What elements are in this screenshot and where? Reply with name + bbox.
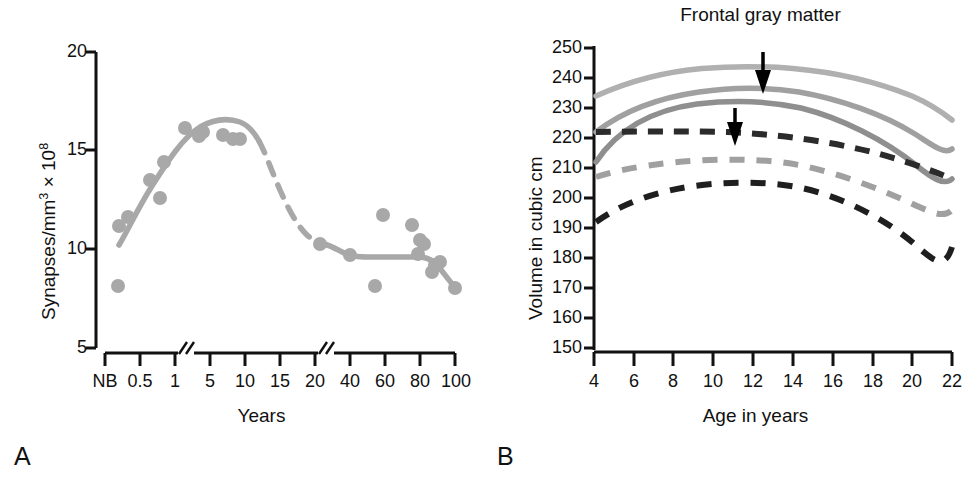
panel-b-curve-dashed-middle [596,160,952,214]
panel-b-y-tick-240: 240 [524,67,582,88]
panel-b-x-tick-22: 22 [927,371,974,392]
panel-b-x-axis [594,352,952,366]
y-axis-title-sup-8: 8 [37,143,51,150]
panel-b-arrow-lower [727,108,743,146]
y-axis-title-main: Synapses/mm [38,200,59,320]
panel-a-y-axis-title: Synapses/mm3 × 108 [38,143,60,320]
panel-a: 20 15 10 5 NB 0.5 1 5 10 15 20 40 60 80 … [0,0,487,479]
panel-b-letter: B [497,442,514,471]
panel-a-x-tick-100: 100 [430,371,482,392]
panel-a-y-tick-20: 20 [41,41,87,62]
panel-b-y-tick-220: 220 [524,127,582,148]
panel-b-y-axis-title: Volume in cubic cm [525,156,547,320]
panel-a-fit-curve [119,120,455,287]
panel-a-x-axis-title: Years [0,405,487,427]
panel-b-curve-solid-lower [596,102,952,182]
panel-b: Frontal gray matter [487,0,974,479]
panel-a-axis-break-1 [178,342,194,355]
panel-b-x-axis-title: Age in years [487,405,974,427]
panel-a-letter: A [14,442,31,471]
panel-b-y-tick-230: 230 [524,97,582,118]
panel-a-y-axis [86,52,96,348]
panel-a-y-tick-5: 5 [41,337,87,358]
y-axis-title-mid: × 10 [38,150,59,193]
panel-b-curve-dashed-lower [596,183,952,262]
panel-a-x-axis [105,353,455,366]
panel-b-curve-solid-upper [596,67,952,120]
panel-b-y-tick-250: 250 [524,37,582,58]
figure-container: 20 15 10 5 NB 0.5 1 5 10 15 20 40 60 80 … [0,0,974,479]
panel-b-y-tick-150: 150 [524,337,582,358]
panel-b-y-axis [584,46,594,350]
y-axis-title-sup-3: 3 [37,193,51,200]
panel-a-axis-break-2 [318,342,334,355]
